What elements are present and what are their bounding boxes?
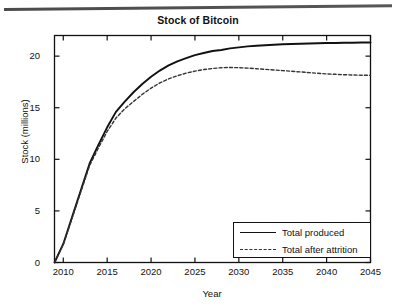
x-tick-label: 2045 xyxy=(351,266,391,277)
x-tick-label: 2025 xyxy=(175,266,215,277)
x-tick-label: 2020 xyxy=(131,266,171,277)
legend-label: Total produced xyxy=(282,227,344,238)
legend-label: Total after attrition xyxy=(282,244,358,255)
legend-item-total-produced: Total produced xyxy=(240,224,344,241)
legend-item-total-after-attrition: Total after attrition xyxy=(240,241,358,258)
x-tick-label: 2040 xyxy=(307,266,347,277)
chart-figure: Stock of Bitcoin Stock (millions) Year 2… xyxy=(0,0,396,308)
legend-swatch-dashed-line-icon xyxy=(240,245,276,254)
y-tick-label: 0 xyxy=(8,257,40,268)
x-tick-label: 2015 xyxy=(87,266,127,277)
chart-legend: Total produced Total after attrition xyxy=(233,222,371,258)
y-tick-label: 10 xyxy=(8,153,40,164)
y-tick-label: 15 xyxy=(8,102,40,113)
x-tick-label: 2010 xyxy=(43,266,83,277)
plot-area xyxy=(0,0,396,308)
y-tick-label: 5 xyxy=(8,205,40,216)
y-tick-label: 20 xyxy=(8,50,40,61)
x-tick-label: 2035 xyxy=(263,266,303,277)
x-tick-label: 2030 xyxy=(219,266,259,277)
legend-swatch-solid-line-icon xyxy=(240,228,276,237)
